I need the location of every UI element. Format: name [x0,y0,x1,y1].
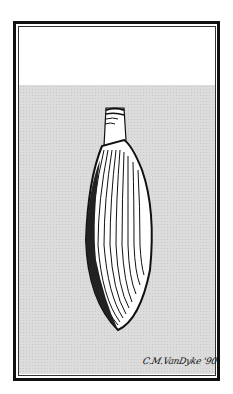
artist-signature: C.M.VanDyke '90 [142,356,218,366]
clam-illustration [0,0,233,394]
